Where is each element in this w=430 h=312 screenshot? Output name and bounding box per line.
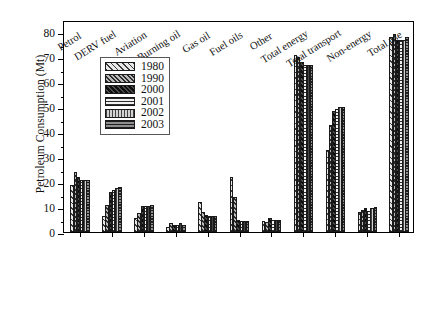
bar-2003-petrol [86, 180, 89, 232]
y-axis-tick-label: 60 [44, 78, 56, 90]
chart-legend: 198019902000200120022003 [100, 57, 170, 135]
x-axis-tick [335, 232, 336, 237]
bar-2003-fuel-oils [246, 221, 249, 232]
bar-2003-gas-oil [214, 216, 217, 232]
x-axis-tick [176, 232, 177, 237]
bar-2003-burning-oil [182, 225, 185, 232]
y-axis-tick-label: 20 [44, 178, 56, 190]
y-axis-tick [58, 184, 64, 185]
y-axis-tick [58, 84, 64, 85]
y-axis-minor-tick [61, 122, 65, 123]
y-axis-tick [58, 109, 64, 110]
y-axis-tick [58, 209, 64, 210]
y-axis-tick [58, 59, 64, 60]
bar-2003-non-energy [374, 207, 377, 232]
legend-swatch-icon [105, 85, 135, 94]
bar-2003-total-energy [310, 65, 313, 232]
bar-2003-other [278, 220, 281, 232]
x-axis-tick [303, 232, 304, 237]
legend-label: 1980 [141, 61, 164, 73]
y-axis-minor-tick [61, 97, 65, 98]
legend-label: 2000 [141, 84, 164, 96]
x-axis-tick [144, 232, 145, 237]
x-axis-tick [208, 232, 209, 237]
y-axis-tick [58, 159, 64, 160]
x-axis-tick [112, 232, 113, 237]
bar-2003-total-transport [342, 107, 345, 232]
bar-2003-derv-fuel [118, 187, 121, 232]
y-axis-minor-tick [61, 147, 65, 148]
bar-2003-aviation [150, 205, 153, 232]
y-axis-minor-tick [61, 72, 65, 73]
x-axis-tick-label: Gas oil [180, 30, 212, 55]
y-axis-minor-tick [61, 172, 65, 173]
y-axis-tick [58, 134, 64, 135]
y-axis-tick [58, 234, 64, 235]
y-axis-tick-label: 80 [44, 28, 56, 40]
legend-swatch-icon [105, 62, 135, 71]
legend-swatch-icon [105, 120, 135, 129]
legend-swatch-icon [105, 97, 135, 106]
y-axis-tick-label: 10 [44, 203, 56, 215]
x-axis-tick [240, 232, 241, 237]
y-axis-tick-label: 50 [44, 103, 56, 115]
x-axis-tick [80, 232, 81, 237]
y-axis-tick-label: 30 [44, 153, 56, 165]
bar-2003-total-use [405, 37, 408, 232]
x-axis-tick-label: Fuel oils [207, 29, 244, 58]
y-axis-tick [58, 34, 64, 35]
legend-item-1980: 1980 [105, 61, 164, 73]
x-axis-tick [367, 232, 368, 237]
chart-figure: Petroleum Consumption (Mt) 0102030405060… [0, 0, 430, 312]
y-axis-minor-tick [61, 197, 65, 198]
x-axis-tick [399, 232, 400, 237]
x-axis-tick [271, 232, 272, 237]
y-axis-tick-label: 70 [44, 53, 56, 65]
y-axis-minor-tick [61, 222, 65, 223]
legend-item-2003: 2003 [105, 119, 164, 131]
legend-swatch-icon [105, 109, 135, 118]
y-axis-tick-label: 0 [49, 228, 55, 240]
legend-label: 2003 [141, 119, 164, 131]
legend-swatch-icon [105, 74, 135, 83]
y-axis-tick-label: 40 [44, 128, 56, 140]
